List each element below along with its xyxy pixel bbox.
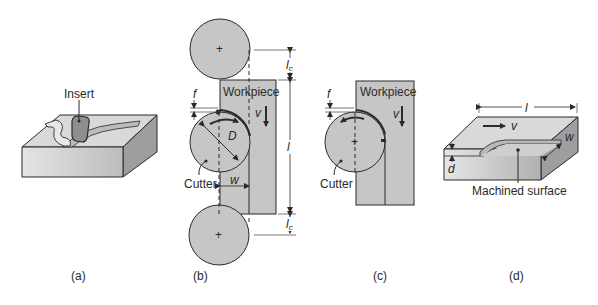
center-mark-icon: + xyxy=(216,42,223,56)
caption-d: (d) xyxy=(509,269,524,283)
insert-label: Insert xyxy=(64,87,95,101)
panel-b: + + D Cutter Workpiece v f w xyxy=(184,19,298,283)
width-label-d: w xyxy=(565,130,575,144)
panel-d: l v w d Machined surface (d) xyxy=(444,101,578,283)
length-label: l xyxy=(287,140,290,154)
panel-c: + Workpiece v f Cutter (c) xyxy=(320,81,417,283)
width-label: w xyxy=(230,173,240,187)
center-mark-icon: + xyxy=(215,228,222,242)
insert-icon xyxy=(72,116,89,142)
diameter-label: D xyxy=(228,129,237,143)
cutter-label-c: Cutter xyxy=(320,177,353,191)
length-label-d: l xyxy=(525,101,528,115)
caption-c: (c) xyxy=(373,269,387,283)
velocity-label-d: v xyxy=(511,119,518,133)
velocity-label-c: v xyxy=(393,107,400,121)
cutter-label: Cutter xyxy=(184,177,217,191)
workpiece-label-c: Workpiece xyxy=(360,85,417,99)
depth-label-d: d xyxy=(448,162,455,176)
feed-label: f xyxy=(193,87,198,101)
caption-a: (a) xyxy=(71,269,86,283)
center-mark-icon: + xyxy=(351,135,358,149)
workpiece-label: Workpiece xyxy=(223,85,280,99)
feed-label-c: f xyxy=(327,87,332,101)
panel-a: Insert (a) xyxy=(22,87,157,283)
machined-surface-label: Machined surface xyxy=(472,184,567,198)
velocity-label: v xyxy=(255,106,262,120)
milling-diagram: Insert (a) + + D Cutter Workpiece v xyxy=(0,0,598,305)
caption-b: (b) xyxy=(193,269,208,283)
